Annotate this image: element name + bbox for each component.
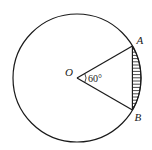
radius-OA — [77, 46, 132, 78]
circle-diagram: O A B 60° — [0, 0, 152, 150]
radius-OB — [77, 78, 132, 110]
angle-arc — [85, 74, 86, 83]
center-label-O: O — [65, 66, 73, 78]
angle-label: 60° — [88, 73, 102, 84]
point-label-B: B — [134, 111, 141, 123]
point-label-A: A — [135, 34, 143, 46]
